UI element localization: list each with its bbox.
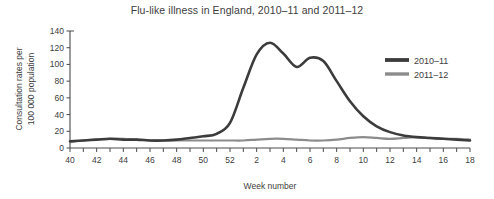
- legend-label-2: 2011–12: [414, 70, 448, 80]
- x-axis-title: Week number: [244, 181, 297, 191]
- x-tick-label: 42: [92, 155, 102, 165]
- x-axis: 4042444648505224681012141618: [65, 148, 475, 165]
- y-tick-label: 140: [50, 26, 64, 36]
- y-axis: 020406080100120140: [50, 26, 74, 153]
- x-tick-label: 12: [385, 155, 395, 165]
- x-tick-label: 6: [308, 155, 313, 165]
- legend-label-1: 2010–11: [414, 56, 448, 66]
- x-tick-label: 2: [254, 155, 259, 165]
- x-tick-label: 18: [465, 155, 475, 165]
- x-tick-label: 14: [412, 155, 422, 165]
- x-tick-label: 44: [119, 155, 129, 165]
- y-tick-label: 0: [59, 143, 64, 153]
- y-axis-title-line1: Consultation rates per: [14, 47, 24, 130]
- x-tick-label: 46: [145, 155, 155, 165]
- y-axis-title-line2: 100 000 population: [26, 53, 36, 126]
- y-tick-label: 80: [55, 76, 65, 86]
- x-tick-label: 16: [439, 155, 449, 165]
- x-tick-label: 40: [65, 155, 75, 165]
- series-lines: [70, 43, 470, 142]
- x-tick-label: 48: [172, 155, 182, 165]
- x-tick-label: 10: [359, 155, 369, 165]
- chart-legend: 2010–112011–12: [385, 56, 448, 80]
- y-tick-label: 100: [50, 59, 64, 69]
- chart-figure: Flu-like illness in England, 2010–11 and…: [0, 0, 494, 199]
- x-tick-label: 50: [199, 155, 209, 165]
- series-line-1: [70, 43, 470, 142]
- y-tick-label: 60: [55, 93, 65, 103]
- y-tick-label: 120: [50, 43, 64, 53]
- x-tick-label: 4: [281, 155, 286, 165]
- y-tick-label: 20: [55, 126, 65, 136]
- x-tick-label: 52: [225, 155, 235, 165]
- x-tick-label: 8: [334, 155, 339, 165]
- line-chart-plot: 020406080100120140 404244464850522468101…: [0, 0, 494, 199]
- y-tick-label: 40: [55, 110, 65, 120]
